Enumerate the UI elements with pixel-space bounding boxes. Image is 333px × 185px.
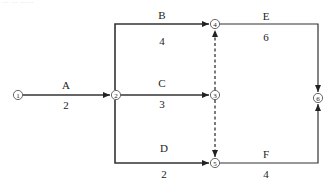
activity-f-duration: 4 <box>263 168 269 180</box>
node-2-label: 2 <box>114 92 118 100</box>
activity-c-name: C <box>158 77 165 89</box>
network-diagram: A 2 B 4 C 3 D 2 E 6 F 4 1 2 3 <box>0 0 333 185</box>
node-5: 5 <box>210 158 219 167</box>
node-3-label: 3 <box>213 92 217 100</box>
node-6: 6 <box>313 93 322 102</box>
node-4: 4 <box>210 19 219 28</box>
activity-d-duration: 2 <box>161 168 167 180</box>
activity-b-duration: 4 <box>159 35 165 47</box>
activity-a-duration: 2 <box>63 99 69 111</box>
activity-e-duration: 6 <box>263 31 269 43</box>
node-3: 3 <box>210 90 219 99</box>
activity-f-name: F <box>263 148 269 160</box>
node-2: 2 <box>111 90 120 99</box>
node-4-label: 4 <box>213 21 217 29</box>
activity-c-duration: 3 <box>159 98 165 110</box>
node-5-label: 5 <box>213 160 217 168</box>
node-1-label: 1 <box>16 92 20 100</box>
node-1: 1 <box>13 90 22 99</box>
activity-e-name: E <box>263 10 270 22</box>
activity-e-arrow <box>220 24 318 92</box>
activity-a-name: A <box>62 79 70 91</box>
activity-d-name: D <box>160 142 168 154</box>
activity-b-name: B <box>158 9 165 21</box>
node-6-label: 6 <box>316 95 320 103</box>
